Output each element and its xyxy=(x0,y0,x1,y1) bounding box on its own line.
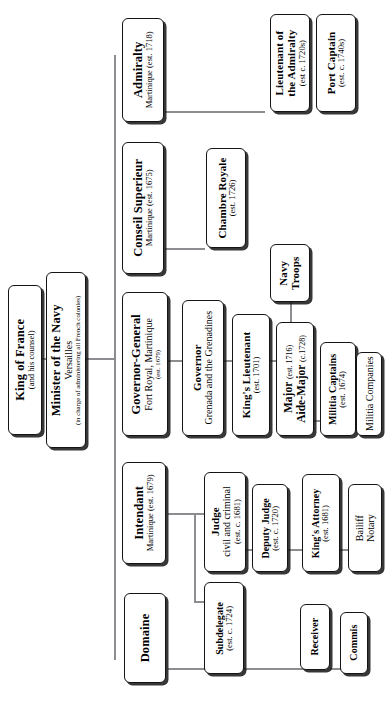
node-title-line-1: Bailiff xyxy=(354,514,365,542)
node-kings-lieutenant[interactable]: King's Lieutenant (est. 1701) xyxy=(232,314,270,436)
node-title: Conseil Superieur xyxy=(131,159,145,257)
node-king-of-france[interactable]: King of France (and his counsel) xyxy=(8,285,42,435)
node-intendant[interactable]: Intendant Martinique (est. 1679) xyxy=(122,462,166,564)
link-intendant-to-branch xyxy=(168,513,196,515)
node-governor-grenada[interactable]: Governor Grenada and the Grenadines xyxy=(182,300,224,436)
node-subtitle: Martinique (est. 1679) xyxy=(146,474,156,551)
node-subtitle: civil and criminal xyxy=(221,487,232,558)
node-deputy-judge[interactable]: Deputy Judge (est. c. 1720) xyxy=(252,484,288,572)
node-commis[interactable]: Commis xyxy=(340,612,368,674)
node-title: Chambre Royale xyxy=(215,158,227,239)
node-title: Commis xyxy=(348,625,359,661)
node-title-line-2: Notary xyxy=(365,514,376,542)
node-title-line-1: Navy xyxy=(278,256,290,289)
node-subdelegate[interactable]: Subdelegate (est. c. 1724) xyxy=(204,582,244,674)
node-port-captain[interactable]: Port Captain (est. c. 1740s) xyxy=(316,14,356,112)
node-title: Subdelegate xyxy=(214,602,225,655)
link-conseil-to-chambre xyxy=(165,248,205,250)
node-subtitle: (est c. 1720s) xyxy=(298,30,308,97)
node-title-line-2: Troops xyxy=(290,256,302,289)
node-subtitle: Versailles xyxy=(64,295,75,424)
node-subtitle: (est. c. 1724) xyxy=(225,602,235,655)
node-title-line-2: the Admiralty xyxy=(285,30,297,97)
node-subtitle-2: (in charge of administering all French c… xyxy=(75,295,83,424)
node-subtitle: Martinique (est. 1718) xyxy=(145,31,155,108)
node-subtitle: Fort Royal, Martinique xyxy=(143,314,154,414)
node-major-aide-major[interactable]: Major (est. 1716) Aide-Major (c.1728) xyxy=(276,322,314,436)
node-judge[interactable]: Judge civil and criminal (est. c. 1681) xyxy=(204,472,246,572)
node-title: Militia Companies xyxy=(363,357,374,432)
node-admiralty[interactable]: Admiralty Martinique (est. 1718) xyxy=(122,18,164,122)
node-subtitle-2: (est. 1679) xyxy=(154,314,162,414)
node-title: Governor xyxy=(191,311,203,425)
node-conseil-superieur[interactable]: Conseil Superieur Martinique (est. 1675) xyxy=(122,142,164,274)
node-subtitle: Grenada and the Grenadines xyxy=(204,311,215,425)
node-subtitle: (est. 1681) xyxy=(322,488,332,558)
node-kings-attorney[interactable]: King's Attorney (est. 1681) xyxy=(302,474,340,572)
node-domaine[interactable]: Domaine xyxy=(124,593,166,683)
spine-intendant-branch xyxy=(194,513,196,603)
node-minister-of-the-navy[interactable]: Minister of the Navy Versailles (in char… xyxy=(46,272,86,448)
node-subtitle: Martinique (est. 1675) xyxy=(145,159,155,257)
node-title: Port Captain xyxy=(325,32,337,95)
link-admiralty-to-lieutenant xyxy=(165,111,265,113)
node-title: Receiver xyxy=(309,618,320,656)
node-title-major: Major (est. 1716) xyxy=(282,335,295,423)
node-title-line-1: Lieutenant of xyxy=(273,30,285,97)
node-subtitle-2: (est. c. 1681) xyxy=(232,487,242,558)
node-lieutenant-of-the-admiralty[interactable]: Lieutenant of the Admiralty (est c. 1720… xyxy=(270,14,310,112)
node-governor-general[interactable]: Governor-General Fort Royal, Martinique … xyxy=(122,292,168,436)
node-subtitle: (est. 1726) xyxy=(227,158,237,239)
node-title: Domaine xyxy=(138,614,152,663)
node-chambre-royale[interactable]: Chambre Royale (est. 1726) xyxy=(206,148,246,248)
node-title: King of France xyxy=(13,319,27,401)
node-militia-companies[interactable]: Militia Companies xyxy=(356,352,382,436)
node-subtitle: (est. c. 1740s) xyxy=(337,32,347,95)
node-bailiff-notary[interactable]: Bailiff Notary xyxy=(348,484,382,572)
node-militia-captains[interactable]: Militia Captains (est. 1674) xyxy=(320,342,356,436)
node-navy-troops[interactable]: Navy Troops xyxy=(270,244,310,302)
node-subtitle: (and his counsel) xyxy=(27,319,37,401)
node-title: Governor-General xyxy=(129,314,143,414)
node-title: Judge xyxy=(208,487,220,558)
node-subtitle: (est. c. 1720) xyxy=(271,498,281,558)
node-subtitle: (est. 1674) xyxy=(339,353,349,424)
node-receiver[interactable]: Receiver xyxy=(300,604,330,670)
node-title: King's Lieutenant xyxy=(240,332,252,418)
org-chart-canvas: King of France (and his counsel) Ministe… xyxy=(0,0,389,705)
node-title: Minister of the Navy xyxy=(50,295,64,424)
node-title-aide-major: Aide-Major (c.1728) xyxy=(295,335,308,423)
node-subtitle: (est. 1701) xyxy=(252,332,262,418)
